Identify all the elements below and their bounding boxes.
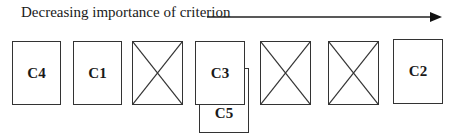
criterion-box-c1: C1 (73, 41, 122, 105)
criterion-label: C3 (211, 65, 229, 82)
empty-slot-box (328, 41, 379, 105)
criterion-label: C4 (27, 65, 45, 82)
empty-slot-box (132, 41, 183, 105)
criterion-box-c4: C4 (12, 41, 61, 105)
cross-icon (329, 42, 378, 104)
criterion-label: C1 (88, 65, 106, 82)
criterion-label: C2 (409, 63, 427, 80)
empty-slot-box (260, 41, 311, 105)
right-arrow-icon (0, 0, 452, 40)
cross-icon (133, 42, 182, 104)
criterion-label: C5 (200, 105, 248, 122)
cross-icon (261, 42, 310, 104)
criterion-box-c3: C3 (195, 41, 245, 105)
criterion-box-c2: C2 (393, 39, 443, 104)
